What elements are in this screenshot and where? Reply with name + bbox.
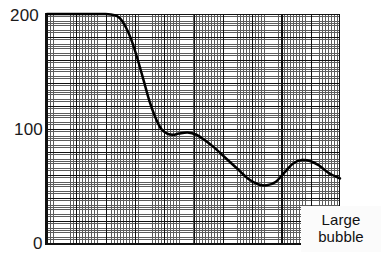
annotation-line-1: Large bbox=[322, 212, 361, 229]
plot-area: Large bubble bbox=[47, 14, 340, 244]
data-curve bbox=[47, 14, 340, 244]
y-tick-label-0: 0 bbox=[33, 234, 43, 254]
y-tick-label-100: 100 bbox=[14, 120, 43, 140]
curve-path bbox=[47, 14, 340, 186]
annotation-line-2: bubble bbox=[318, 229, 364, 246]
annotation-large-bubble: Large bubble bbox=[301, 206, 381, 252]
y-tick-label-200: 200 bbox=[10, 6, 39, 26]
